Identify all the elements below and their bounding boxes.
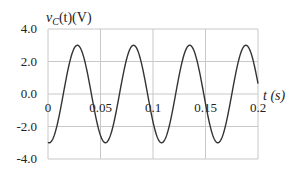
y-axis-title: vC(t)(V) [46, 10, 92, 27]
x-tick-label: 0.1 [145, 100, 161, 115]
y-tick-label: 4.0 [21, 21, 37, 36]
y-tick-label: -2.0 [16, 119, 37, 134]
y-tick-label: -4.0 [16, 151, 37, 166]
x-tick-label: 0 [45, 100, 52, 115]
x-axis-title: t (s) [263, 88, 286, 104]
grid [48, 29, 258, 159]
y-tick-label: 2.0 [21, 54, 37, 69]
y-tick-label: 0.0 [21, 86, 37, 101]
line-chart: 4.02.00.0-2.0-4.000.050.10.150.2 vC(t)(V… [0, 0, 304, 175]
